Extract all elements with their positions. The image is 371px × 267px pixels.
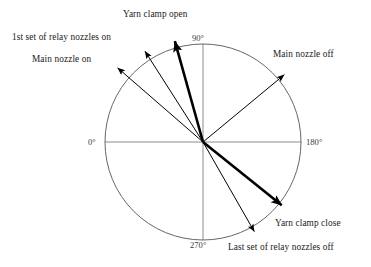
event-label-yarn-clamp-close: Yarn clamp close [275,218,341,229]
axis-label-right: 180° [306,137,322,147]
axis-label-top: 90° [192,33,204,43]
event-label-first-set-relay-nozzles-on: 1st set of relay nozzles on [12,32,111,43]
event-vectors-group [118,41,285,231]
axis-label-left: 0° [88,137,96,147]
event-label-yarn-clamp-open: Yarn clamp open [123,9,188,20]
event-arrow-yarn-clamp-open [175,41,203,142]
event-arrow-main-nozzle-off [203,75,284,142]
event-arrow-yarn-clamp-close [203,142,282,205]
axis-label-bottom: 270° [190,240,206,250]
event-label-main-nozzle-off: Main nozzle off [273,49,334,60]
event-arrow-main-nozzle-on [118,68,203,142]
event-label-main-nozzle-on: Main nozzle on [32,54,91,65]
event-arrow-first-set-relay-nozzles-on [145,51,203,142]
event-arrow-last-set-relay-nozzles-off [203,142,254,232]
event-label-last-set-relay-nozzles-off: Last set of relay nozzles off [228,242,334,253]
timing-diagram-figure: 0°90°180°270° Yarn clamp open1st set of … [0,0,371,267]
